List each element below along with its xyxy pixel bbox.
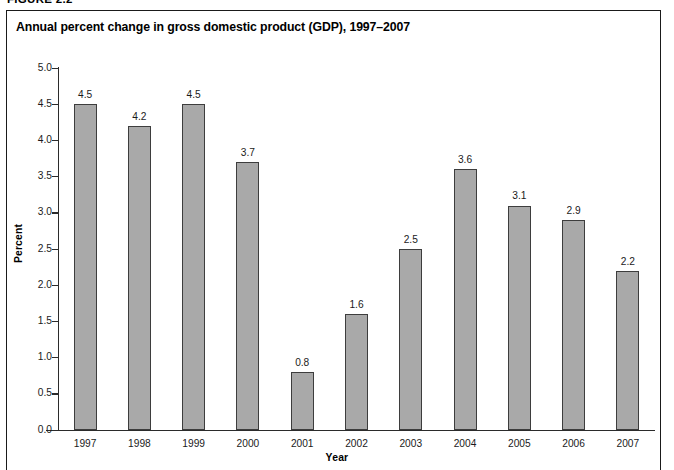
y-axis-tick-mark: [52, 176, 58, 177]
y-axis-tick-label: 2.5: [24, 244, 52, 254]
bar-group: 3.7: [236, 162, 259, 430]
y-axis-tick: 0.0: [0, 430, 52, 431]
x-axis-tick-label: 2001: [276, 439, 328, 449]
x-axis-tick-label: 1999: [168, 439, 220, 449]
bar: [616, 271, 639, 430]
x-axis-tick-label: 2004: [439, 439, 491, 449]
bar: [508, 206, 531, 430]
bar-value-label: 1.6: [335, 300, 379, 310]
y-axis-tick: 5.0: [0, 68, 52, 69]
y-axis-tick: 3.0: [0, 212, 52, 213]
y-axis-title: Percent: [13, 214, 24, 274]
bar: [236, 162, 259, 430]
bar-value-label: 3.7: [226, 148, 270, 158]
bar-group: 3.1: [508, 206, 531, 430]
bar: [454, 169, 477, 430]
x-axis-tick-label: 1997: [59, 439, 111, 449]
y-axis-tick-mark: [52, 68, 58, 69]
y-axis-tick-label: 3.0: [24, 207, 52, 217]
y-axis-tick: 0.5: [0, 393, 52, 394]
y-axis-tick-label: 3.5: [24, 171, 52, 181]
y-axis-tick-label: 4.0: [24, 135, 52, 145]
y-axis-tick: 1.0: [0, 357, 52, 358]
y-axis-tick-label: 4.5: [24, 99, 52, 109]
bar-value-label: 4.5: [172, 90, 216, 100]
y-axis-line: [58, 67, 59, 431]
bar-group: 2.5: [399, 249, 422, 430]
x-axis-tick-label: 2000: [222, 439, 274, 449]
y-axis-tick-mark: [52, 393, 58, 394]
x-axis-title: Year: [0, 452, 674, 463]
bar-group: 2.2: [616, 271, 639, 430]
bar-value-label: 4.5: [63, 90, 107, 100]
y-axis-tick-label: 0.0: [24, 425, 52, 435]
y-axis-tick: 2.5: [0, 249, 52, 250]
bar-group: 4.2: [128, 126, 151, 430]
bar-value-label: 3.1: [497, 191, 541, 201]
y-axis-tick-label: 1.0: [24, 352, 52, 362]
y-axis-tick-label: 1.5: [24, 316, 52, 326]
bar-group: 1.6: [345, 314, 368, 430]
bar: [291, 372, 314, 430]
bar: [562, 220, 585, 430]
x-axis-tick-label: 2003: [385, 439, 437, 449]
y-axis-tick: 4.0: [0, 140, 52, 141]
bar-value-label: 2.5: [389, 235, 433, 245]
bar: [128, 126, 151, 430]
bar-group: 2.9: [562, 220, 585, 430]
x-axis-tick-label: 2006: [548, 439, 600, 449]
x-axis-tick-label: 1998: [113, 439, 165, 449]
bar-group: 4.5: [74, 104, 97, 430]
y-axis-tick-mark: [52, 212, 58, 213]
y-axis-tick: 2.0: [0, 285, 52, 286]
y-axis-tick-label: 0.5: [24, 388, 52, 398]
y-axis-tick: 3.5: [0, 176, 52, 177]
bar-group: 3.6: [454, 169, 477, 430]
bar: [399, 249, 422, 430]
bar-value-label: 2.2: [606, 257, 650, 267]
y-axis-tick: 1.5: [0, 321, 52, 322]
bar-value-label: 0.8: [280, 358, 324, 368]
bar-value-label: 4.2: [117, 112, 161, 122]
y-axis-tick: 4.5: [0, 104, 52, 105]
bar-value-label: 2.9: [552, 206, 596, 216]
x-axis-tick-label: 2002: [331, 439, 383, 449]
y-axis-tick-mark: [52, 249, 58, 250]
y-axis-tick-mark: [52, 357, 58, 358]
bar: [182, 104, 205, 430]
y-axis-tick-mark: [52, 430, 58, 431]
y-axis-tick-mark: [52, 321, 58, 322]
bar-value-label: 3.6: [443, 155, 487, 165]
bar-group: 4.5: [182, 104, 205, 430]
x-axis-tick-label: 2005: [493, 439, 545, 449]
y-axis-tick-mark: [52, 104, 58, 105]
bar-group: 0.8: [291, 372, 314, 430]
y-axis-tick-mark: [52, 140, 58, 141]
bar: [345, 314, 368, 430]
y-axis-tick-mark: [52, 285, 58, 286]
y-axis-tick-label: 5.0: [24, 63, 52, 73]
bar: [74, 104, 97, 430]
y-axis-tick-label: 2.0: [24, 280, 52, 290]
x-axis-tick-label: 2007: [602, 439, 654, 449]
